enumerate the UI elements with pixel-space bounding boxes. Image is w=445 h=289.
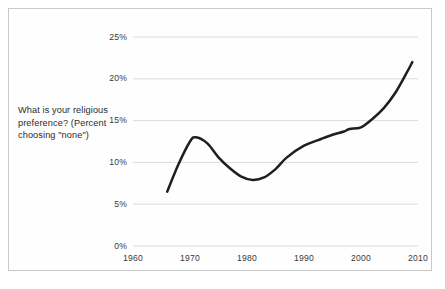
line-chart-plot bbox=[0, 0, 445, 289]
x-tick-2010: 2010 bbox=[398, 253, 438, 263]
x-tick-1970: 1970 bbox=[170, 253, 210, 263]
series-line-0 bbox=[167, 62, 412, 192]
x-tick-2000: 2000 bbox=[341, 253, 381, 263]
gridlines-group bbox=[133, 37, 418, 246]
x-tick-1980: 1980 bbox=[227, 253, 267, 263]
y-tick-10: 10% bbox=[93, 157, 127, 167]
y-tick-5: 5% bbox=[93, 199, 127, 209]
x-tick-1990: 1990 bbox=[284, 253, 324, 263]
y-tick-20: 20% bbox=[93, 73, 127, 83]
chart-figure: What is your religious preference? (Perc… bbox=[0, 0, 445, 289]
x-tick-1960: 1960 bbox=[113, 253, 153, 263]
y-tick-25: 25% bbox=[93, 32, 127, 42]
series-group bbox=[167, 62, 412, 192]
y-tick-0: 0% bbox=[93, 241, 127, 251]
y-tick-15: 15% bbox=[93, 115, 127, 125]
